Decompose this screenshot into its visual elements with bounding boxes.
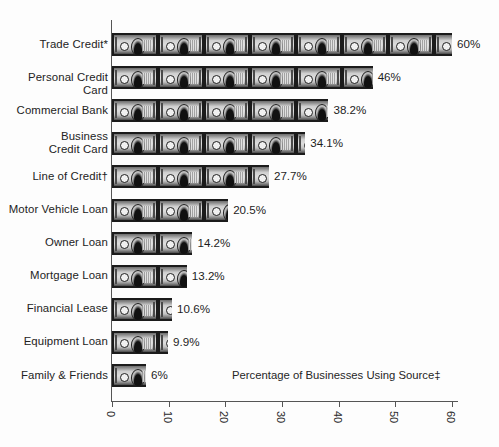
bar [112, 199, 228, 222]
bar-row: 34.1% [112, 132, 458, 155]
bar-value-label: 10.6% [177, 302, 210, 315]
x-tick-mark [225, 401, 226, 407]
dollar-bill-icon [296, 132, 305, 155]
dollar-bill-icon [112, 232, 158, 255]
bar [112, 99, 328, 122]
bar-value-label: 27.7% [274, 169, 307, 182]
category-label: Commercial Bank [17, 104, 108, 117]
dollar-bill-icon [388, 33, 434, 56]
dollar-bill-icon [112, 265, 158, 288]
bar [112, 165, 269, 188]
x-tick-label: 0 [105, 411, 117, 417]
bar-value-label: 14.2% [197, 236, 230, 249]
bar-value-label: 9.9% [173, 335, 199, 348]
dollar-bill-icon [158, 298, 172, 321]
pictogram-bar-chart: Trade Credit*Personal Credit CardCommerc… [0, 0, 499, 447]
x-tick-mark [112, 401, 113, 407]
bar [112, 66, 373, 89]
bar [112, 33, 452, 56]
bar-row: 46% [112, 66, 458, 89]
dollar-bill-icon [250, 165, 269, 188]
dollar-bill-icon [112, 33, 158, 56]
category-label: Personal Credit Card [0, 71, 108, 97]
bar-row: 10.6% [112, 298, 458, 321]
dollar-bill-icon [204, 66, 250, 89]
category-label: Family & Friends [21, 369, 108, 382]
x-tick-mark [282, 401, 283, 407]
dollar-bill-icon [112, 66, 158, 89]
x-tick-label: 60 [445, 411, 457, 423]
x-tick-label: 50 [388, 411, 400, 423]
x-axis-line [111, 401, 458, 402]
dollar-bill-icon [158, 33, 204, 56]
dollar-bill-icon [158, 331, 168, 354]
x-tick-label: 30 [275, 411, 287, 423]
bar-value-label: 34.1% [310, 136, 343, 149]
category-label: Motor Vehicle Loan [9, 203, 108, 216]
dollar-bill-icon [204, 199, 228, 222]
dollar-bill-icon [158, 132, 204, 155]
dollar-bill-icon [204, 99, 250, 122]
bar-row: 13.2% [112, 265, 458, 288]
dollar-bill-icon [112, 132, 158, 155]
bar-value-label: 38.2% [333, 103, 366, 116]
bar-row: 14.2% [112, 232, 458, 255]
dollar-bill-icon [112, 199, 158, 222]
bar [112, 364, 146, 387]
x-tick-mark [339, 401, 340, 407]
bar-row: 38.2% [112, 99, 458, 122]
x-tick-mark [395, 401, 396, 407]
dollar-bill-icon [204, 165, 250, 188]
dollar-bill-icon [204, 33, 250, 56]
dollar-bill-icon [296, 33, 342, 56]
category-label: Trade Credit* [39, 38, 108, 51]
category-label: Business Credit Card [49, 130, 108, 156]
bar [112, 298, 172, 321]
dollar-bill-icon [250, 132, 296, 155]
bar-row: 27.7% [112, 165, 458, 188]
category-label: Owner Loan [45, 236, 108, 249]
dollar-bill-icon [112, 99, 158, 122]
category-label: Financial Lease [27, 302, 108, 315]
x-tick-label: 20 [218, 411, 230, 423]
x-tick-label: 40 [332, 411, 344, 423]
x-axis-title: Percentage of Businesses Using Source‡ [232, 369, 441, 381]
dollar-bill-icon [158, 199, 204, 222]
dollar-bill-icon [250, 66, 296, 89]
bar-value-label: 60% [457, 37, 480, 50]
category-label: Equipment Loan [24, 335, 108, 348]
bar [112, 331, 168, 354]
category-label: Mortgage Loan [30, 269, 108, 282]
category-label: Line of Credit† [32, 170, 108, 183]
dollar-bill-icon [158, 265, 187, 288]
dollar-bill-icon [342, 66, 373, 89]
dollar-bill-icon [158, 66, 204, 89]
bar [112, 132, 305, 155]
dollar-bill-icon [250, 33, 296, 56]
dollar-bill-icon [112, 364, 146, 387]
dollar-bill-icon [434, 33, 452, 56]
bar-value-label: 20.5% [233, 203, 266, 216]
bar-value-label: 46% [378, 70, 401, 83]
dollar-bill-icon [158, 232, 192, 255]
plot-area: 60%46%38.2%34.1%27.7%20.5%14.2%13.2%10.6… [112, 20, 458, 395]
x-tick-mark [169, 401, 170, 407]
bar-row: 20.5% [112, 199, 458, 222]
bar [112, 232, 192, 255]
dollar-bill-icon [250, 99, 296, 122]
x-tick-label: 10 [162, 411, 174, 423]
dollar-bill-icon [296, 66, 342, 89]
dollar-bill-icon [342, 33, 388, 56]
dollar-bill-icon [112, 298, 158, 321]
bar [112, 265, 187, 288]
bar-value-label: 6% [151, 368, 168, 381]
bar-row: 9.9% [112, 331, 458, 354]
dollar-bill-icon [158, 99, 204, 122]
dollar-bill-icon [112, 331, 158, 354]
bar-row: 60% [112, 33, 458, 56]
dollar-bill-icon [296, 99, 328, 122]
dollar-bill-icon [204, 132, 250, 155]
dollar-bill-icon [112, 165, 158, 188]
bar-value-label: 13.2% [192, 269, 225, 282]
dollar-bill-icon [158, 165, 204, 188]
